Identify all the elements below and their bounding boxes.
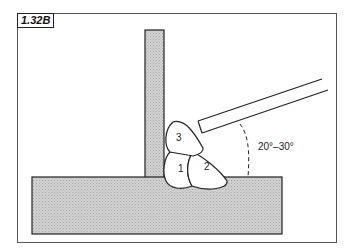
bead-1-label: 1 (178, 163, 184, 174)
angle-label: 20°–30° (258, 141, 294, 152)
vertical-plate (145, 30, 164, 178)
angle-arc (240, 124, 249, 177)
fillet-weld-diagram (0, 0, 352, 252)
electrode (198, 79, 328, 133)
weld-bead-3 (166, 121, 203, 156)
bead-2-label: 2 (204, 161, 210, 172)
bead-3-label: 3 (176, 132, 182, 143)
base-plate (32, 177, 282, 234)
